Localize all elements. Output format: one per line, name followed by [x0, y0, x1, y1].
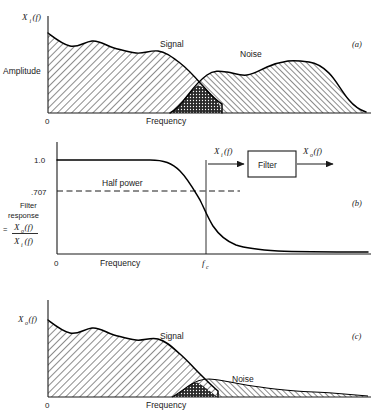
y-axis-label-c-base: X — [17, 314, 24, 324]
input-signal-label: X i (f) — [213, 146, 233, 158]
y-axis-label-a-base: X — [21, 12, 28, 22]
input-label-sub: i — [221, 152, 223, 158]
input-label-tail: (f) — [224, 146, 233, 156]
panel-letter-c: (c) — [352, 331, 362, 341]
y-axis-label-a: X i (f) — [21, 12, 41, 24]
fraction-numerator-base: X — [13, 222, 20, 232]
x-axis-label-a: Frequency — [146, 116, 187, 126]
panel-letter-b: (b) — [352, 198, 362, 208]
amplitude-label: Amplitude — [3, 66, 41, 76]
cutoff-label-sub: c — [206, 264, 209, 270]
y-axis-label-b: Filter response = X o (f) X i (f) — [3, 201, 39, 248]
noise-label-a: Noise — [240, 49, 262, 59]
y-axis-label-a-tail: (f) — [33, 12, 42, 22]
fraction-equals-sign: = — [3, 225, 8, 234]
panel-letter-a: (a) — [352, 39, 362, 49]
fraction-denominator-sub: i — [21, 242, 23, 248]
half-power-label: Half power — [102, 178, 143, 188]
y-tick-label-half-power: .707 — [31, 188, 47, 197]
filter-response-line1: Filter — [20, 201, 37, 210]
output-label-base: X — [302, 146, 309, 156]
fraction-numerator-tail: (f) — [25, 222, 34, 232]
x-origin-label-c: 0 — [45, 401, 50, 410]
noise-label-c: Noise — [232, 374, 254, 384]
x-axis-label-b: Frequency — [100, 258, 141, 268]
panel-c: X o (f) 0 Frequency Signal Noise (c) — [0, 278, 374, 416]
panel-a: X i (f) Amplitude 0 Frequency Signal Noi… — [0, 0, 374, 136]
x-axis-label-c: Frequency — [146, 400, 187, 410]
cutoff-frequency-label: f c — [202, 258, 209, 270]
x-origin-label-a: 0 — [45, 117, 50, 126]
signal-area-c — [40, 298, 374, 398]
panel-b: 1.0 .707 Half power Filter response = X … — [0, 136, 374, 278]
filter-response-curve — [57, 160, 368, 252]
filter-block-diagram: Filter X i (f) X o (f) — [208, 146, 333, 177]
x-origin-label-b: 0 — [54, 259, 59, 268]
output-signal-label: X o (f) — [302, 146, 322, 158]
fraction-denominator-base: X — [13, 236, 20, 246]
y-axis-label-c: X o (f) — [17, 314, 37, 326]
signal-label-c: Signal — [160, 331, 184, 341]
output-label-tail: (f) — [314, 146, 323, 156]
input-label-base: X — [213, 146, 220, 156]
filter-response-line2: response — [8, 211, 39, 220]
y-axis-label-c-tail: (f) — [29, 314, 38, 324]
fraction-denominator-tail: (f) — [25, 236, 34, 246]
figure-signal-noise-filtering: X i (f) Amplitude 0 Frequency Signal Noi… — [0, 0, 374, 416]
signal-label-a: Signal — [160, 39, 184, 49]
y-axis-label-a-sub: i — [30, 18, 32, 24]
filter-block-label: Filter — [258, 160, 277, 170]
y-tick-label-one: 1.0 — [34, 156, 46, 165]
